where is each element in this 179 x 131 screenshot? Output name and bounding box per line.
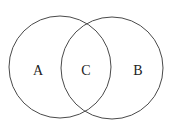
set-b-circle bbox=[61, 17, 163, 119]
set-a-label: A bbox=[33, 63, 44, 78]
venn-diagram: A C B bbox=[0, 0, 179, 131]
set-a-circle bbox=[9, 16, 111, 118]
intersection-c-label: C bbox=[81, 63, 90, 78]
set-b-label: B bbox=[133, 63, 142, 78]
